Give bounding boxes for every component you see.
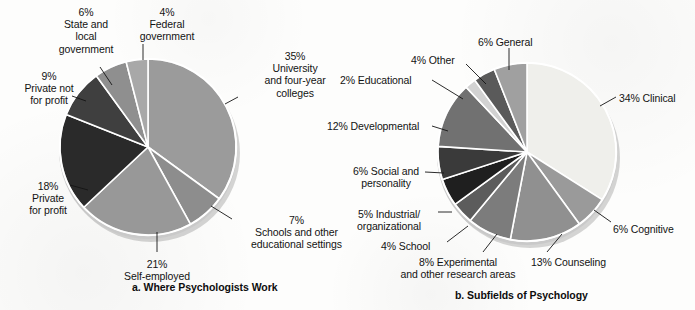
leader-line-university-and-four-year-colleges — [225, 97, 238, 104]
slice-label-school: 4% School — [381, 240, 443, 252]
slice-label-state-and-local-government: 6% State and local government — [43, 6, 129, 55]
slice-label-schools-and-other-educational-settings: 7% Schools and other educational setting… — [239, 214, 354, 251]
slice-label-clinical: 34% Clinical — [619, 92, 695, 104]
slice-label-federal-government: 4% Federal government — [124, 6, 210, 43]
leader-line-school — [447, 226, 468, 242]
slice-label-experimental-and-other-research-areas: 8% Experimental and other research areas — [383, 256, 533, 280]
figure-container: 35% University and four-year colleges7% … — [0, 0, 695, 310]
slice-label-other: 4% Other — [411, 54, 469, 66]
slice-label-social-and-personality: 6% Social and personality — [336, 165, 436, 189]
pie-subfields-of-psychology — [425, 48, 620, 252]
leader-line-educational — [432, 80, 463, 99]
chart-caption-subfields-of-psychology: b. Subfields of Psychology — [455, 289, 588, 301]
slice-label-general: 6% General — [478, 36, 548, 48]
slice-label-self-employed: 21% Self-employed — [112, 258, 202, 282]
slice-label-industrial-organizational: 5% Industrial/ organizational — [339, 208, 439, 232]
slice-label-developmental: 12% Developmental — [327, 120, 437, 132]
chart-caption-where-psychologists-work: a. Where Psychologists Work — [132, 281, 278, 293]
slice-label-educational: 2% Educational — [340, 74, 426, 86]
slice-label-private-for-profit: 18% Private for profit — [10, 180, 86, 217]
slice-label-private-not-for-profit: 9% Private not for profit — [6, 70, 92, 107]
leader-line-clinical — [600, 97, 616, 106]
slice-label-university-and-four-year-colleges: 35% University and four-year colleges — [247, 50, 343, 99]
slice-label-counseling: 13% Counseling — [531, 256, 623, 268]
slice-label-cognitive: 6% Cognitive — [613, 223, 693, 235]
